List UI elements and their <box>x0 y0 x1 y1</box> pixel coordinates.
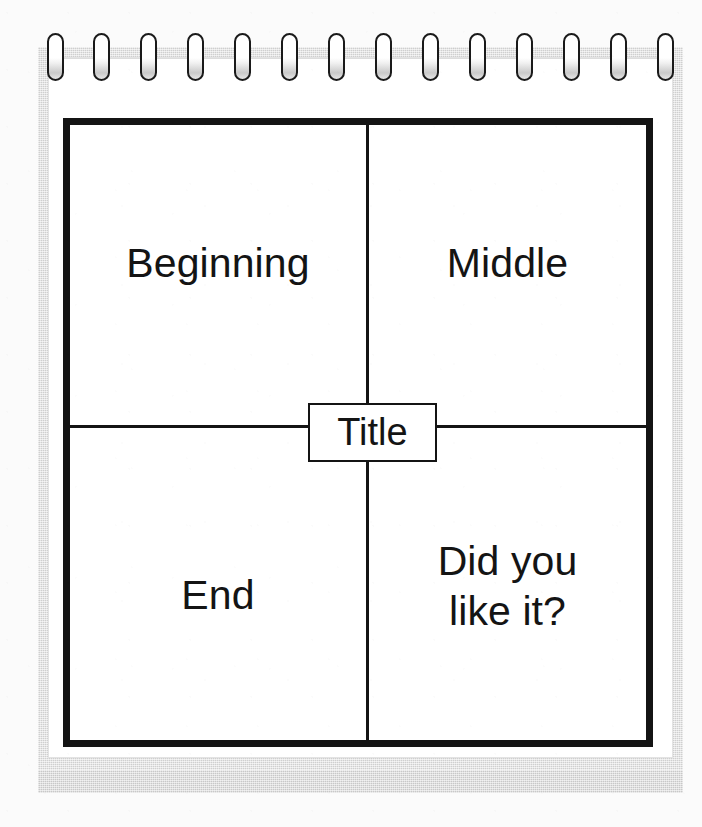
spiral-ring-icon <box>657 33 674 81</box>
notepad-bottom-edge <box>38 770 683 793</box>
title-box[interactable]: Title <box>308 403 437 462</box>
story-map-frame: Beginning Middle End Did you like it? Ti… <box>63 118 653 747</box>
spiral-binding <box>0 0 702 110</box>
spiral-ring-icon <box>516 33 533 81</box>
spiral-ring-icon <box>610 33 627 81</box>
spiral-ring-icon <box>422 33 439 81</box>
spiral-ring-icon <box>140 33 157 81</box>
spiral-ring-icon <box>328 33 345 81</box>
quadrant-question-label: Did you like it? <box>438 536 578 636</box>
title-box-label: Title <box>337 411 407 454</box>
spiral-ring-icon <box>234 33 251 81</box>
quadrant-end-label: End <box>181 570 254 620</box>
quadrant-beginning[interactable]: Beginning <box>70 125 366 425</box>
quadrant-end[interactable]: End <box>70 428 366 740</box>
quadrant-beginning-label: Beginning <box>126 238 309 288</box>
notepad-scene: Beginning Middle End Did you like it? Ti… <box>0 0 702 827</box>
spiral-ring-icon <box>47 33 64 81</box>
quadrant-middle[interactable]: Middle <box>369 125 646 425</box>
spiral-ring-icon <box>281 33 298 81</box>
spiral-ring-icon <box>469 33 486 81</box>
spiral-ring-icon <box>563 33 580 81</box>
quadrant-question[interactable]: Did you like it? <box>369 428 646 740</box>
spiral-ring-icon <box>187 33 204 81</box>
story-map-grid: Beginning Middle End Did you like it? Ti… <box>70 125 646 740</box>
quadrant-middle-label: Middle <box>447 238 568 288</box>
spiral-ring-icon <box>375 33 392 81</box>
spiral-ring-icon <box>93 33 110 81</box>
